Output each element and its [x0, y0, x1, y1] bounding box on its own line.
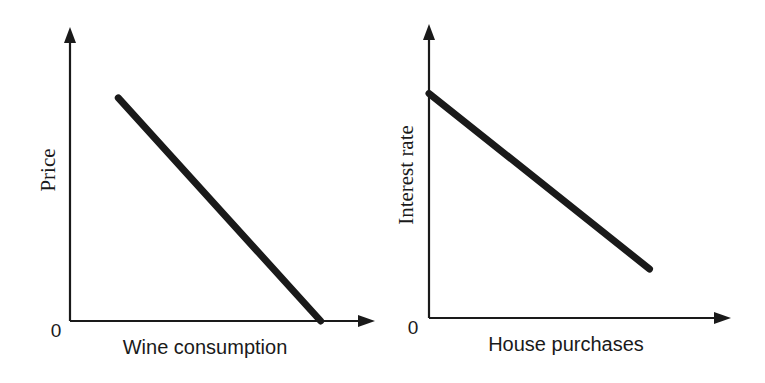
chart-housing: 0 House purchases Interest rate [394, 24, 731, 355]
y-axis-label: Price [36, 148, 60, 191]
series-group [118, 98, 320, 321]
x-axis-arrowhead [358, 315, 375, 327]
chart-wine: 0 Wine consumption Price [36, 27, 375, 358]
demand-curve [429, 93, 650, 269]
charts-canvas: 0 Wine consumption Price 0 House purchas… [0, 0, 765, 383]
x-axis-label: Wine consumption [123, 336, 288, 358]
y-axis-arrowhead [423, 24, 435, 40]
y-axis-label: Interest rate [394, 125, 418, 225]
x-axis-label: House purchases [488, 333, 644, 355]
series-group [429, 93, 650, 269]
origin-label: 0 [51, 320, 62, 341]
x-axis-arrowhead [714, 312, 731, 324]
origin-label: 0 [408, 317, 419, 338]
y-axis-arrowhead [64, 27, 76, 43]
demand-curve [118, 98, 320, 321]
